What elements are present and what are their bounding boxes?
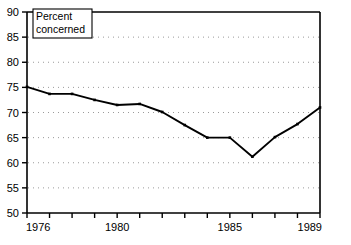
y-axis-label-60: 60	[7, 157, 19, 169]
data-point-1980	[116, 104, 119, 107]
data-point-1988	[296, 123, 299, 126]
y-axis-label-50: 50	[7, 207, 19, 219]
y-axis-label-70: 70	[7, 107, 19, 119]
line-chart: 908580757065605550 1976198019851989 Perc…	[0, 0, 351, 245]
data-point-1976	[26, 86, 29, 89]
legend-label-line1: Percent	[36, 10, 72, 22]
x-axis-label-1976: 1976	[26, 221, 50, 233]
data-point-1984	[206, 136, 209, 139]
data-point-1979	[93, 99, 96, 102]
y-axis-label-65: 65	[7, 132, 19, 144]
data-point-1989	[319, 106, 322, 109]
x-axis-label-1985: 1985	[218, 221, 242, 233]
y-axis-label-80: 80	[7, 56, 19, 68]
data-point-1977	[48, 93, 51, 96]
legend-label-line2: concerned	[36, 23, 85, 35]
data-point-1981	[138, 103, 141, 106]
data-point-1982	[161, 111, 164, 114]
y-axis-label-75: 75	[7, 81, 19, 93]
y-axis-label-55: 55	[7, 182, 19, 194]
y-axis-labels-group: 908580757065605550	[7, 6, 19, 219]
x-axis-label-1980: 1980	[105, 221, 129, 233]
chart-container: 908580757065605550 1976198019851989 Perc…	[0, 0, 351, 245]
data-point-1983	[183, 124, 186, 127]
data-point-1987	[274, 136, 277, 139]
legend: Percent concerned	[33, 9, 92, 38]
y-axis-label-85: 85	[7, 31, 19, 43]
data-point-1985	[229, 136, 232, 139]
data-point-1978	[71, 93, 74, 96]
data-point-1986	[251, 155, 254, 158]
y-axis-label-90: 90	[7, 6, 19, 18]
x-axis-label-1989: 1989	[298, 221, 322, 233]
